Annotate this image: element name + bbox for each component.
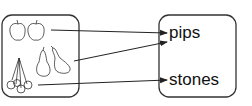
label-stones: stones xyxy=(169,71,219,88)
pear-icon xyxy=(37,47,50,76)
arrow-apple-to-pips xyxy=(51,30,167,33)
apple-icon xyxy=(10,20,25,40)
cherry-icon xyxy=(7,58,32,93)
arrow-pear-to-pips xyxy=(74,42,167,61)
pear-icon xyxy=(51,46,70,73)
label-pips: pips xyxy=(169,24,200,41)
arrow-cherry-to-stones xyxy=(38,80,167,85)
apple-icon xyxy=(28,20,44,40)
diagram-canvas xyxy=(0,0,252,106)
